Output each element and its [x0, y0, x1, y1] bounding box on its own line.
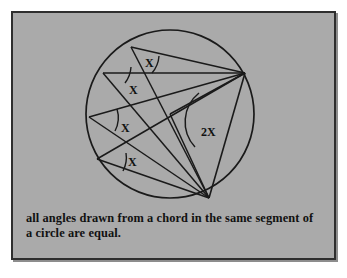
radius-to-right: [170, 73, 245, 114]
caption-line-1: all angles drawn from a chord in the sam…: [26, 211, 326, 226]
angle-arc-3: [115, 109, 118, 131]
diagram-plate: X X X X 2X all angles drawn from a chord…: [11, 11, 336, 260]
ray-p3-to-right: [89, 73, 245, 117]
angle-label-centre: 2X: [201, 125, 216, 139]
caption-block: all angles drawn from a chord in the sam…: [26, 211, 326, 241]
angle-label-2: X: [129, 83, 138, 97]
angle-label-4: X: [128, 155, 137, 169]
figure-root: X X X X 2X all angles drawn from a chord…: [0, 0, 347, 278]
angle-arc-2: [125, 67, 131, 83]
angle-label-1: X: [145, 56, 154, 70]
caption-line-2: a circle are equal.: [26, 226, 326, 241]
angle-label-3: X: [121, 121, 130, 135]
geometry-diagram: X X X X 2X: [13, 13, 334, 213]
